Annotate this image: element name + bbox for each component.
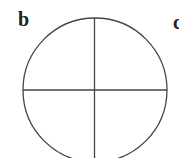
figure-panel: b c [0,0,179,158]
quadrant-circle-diagram [0,0,179,158]
